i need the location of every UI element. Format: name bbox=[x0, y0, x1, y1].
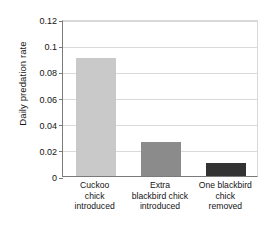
x-axis-tick-label: Cuckoochickintroduced bbox=[62, 180, 127, 212]
y-axis-tick-mark bbox=[59, 178, 63, 179]
x-axis-tick-label-line: Extra bbox=[127, 180, 192, 191]
x-axis-tick-label-line: introduced bbox=[62, 201, 127, 212]
y-axis-title: Daily predation rate bbox=[17, 4, 28, 164]
y-axis-tick-mark bbox=[59, 21, 63, 22]
bar-chart-figure: Daily predation rate 00.020.040.060.080.… bbox=[0, 0, 274, 232]
y-axis-tick-label: 0.12 bbox=[39, 16, 57, 26]
gridline bbox=[63, 21, 257, 22]
y-axis-tick-label: 0.1 bbox=[44, 42, 57, 52]
plot-area: 00.020.040.060.080.10.12 bbox=[62, 20, 258, 177]
y-axis-tick-mark bbox=[59, 125, 63, 126]
bar bbox=[76, 58, 116, 176]
x-axis-tick-label: Extrablackbird chickintroduced bbox=[127, 180, 192, 212]
x-axis-tick-label-line: Cuckoo bbox=[62, 180, 127, 191]
y-axis-tick-mark bbox=[59, 151, 63, 152]
y-axis-tick-label: 0.04 bbox=[39, 121, 57, 131]
x-axis-tick-label-line: removed bbox=[193, 201, 258, 212]
x-axis-tick-label-line: introduced bbox=[127, 201, 192, 212]
gridline bbox=[63, 47, 257, 48]
y-axis-tick-label: 0.02 bbox=[39, 147, 57, 157]
bar bbox=[206, 163, 246, 176]
x-axis-tick-label-line: blackbird chick bbox=[127, 191, 192, 202]
x-axis-tick-label-line: chick bbox=[193, 191, 258, 202]
x-axis-tick-label-line: chick bbox=[62, 191, 127, 202]
y-axis-tick-mark bbox=[59, 47, 63, 48]
bar bbox=[141, 142, 181, 176]
y-axis-tick-mark bbox=[59, 99, 63, 100]
y-axis-tick-label: 0.06 bbox=[39, 95, 57, 105]
y-axis-tick-label: 0 bbox=[52, 173, 57, 183]
x-axis-tick-label-line: One blackbird bbox=[193, 180, 258, 191]
y-axis-tick-label: 0.08 bbox=[39, 68, 57, 78]
y-axis-tick-mark bbox=[59, 73, 63, 74]
x-axis-tick-label: One blackbirdchickremoved bbox=[193, 180, 258, 212]
